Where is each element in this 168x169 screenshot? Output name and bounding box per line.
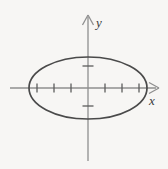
coordinate-plot-svg: y x	[0, 0, 168, 169]
ellipse-figure: y x	[0, 0, 168, 169]
x-axis-label: x	[148, 93, 155, 108]
y-axis-label: y	[94, 15, 102, 30]
